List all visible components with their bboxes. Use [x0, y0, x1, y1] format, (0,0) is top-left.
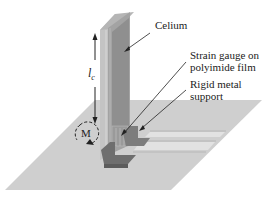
length-subscript: c [91, 73, 95, 82]
label-support-line1: Rigid metal [190, 79, 242, 90]
support-shadow [104, 164, 128, 168]
label-strain-gauge-line2: polyimide film [190, 62, 256, 73]
celium-mounting-diagram: Celium Strain gauge on polyimide film Ri… [0, 0, 269, 198]
label-celium: Celium [155, 20, 187, 31]
label-strain-gauge-line1: Strain gauge on [190, 50, 259, 61]
label-support-line2: support [190, 91, 223, 102]
floor-stripe [145, 132, 225, 137]
diagram-graphic [0, 0, 269, 198]
label-length: lc [88, 68, 95, 83]
label-moment: M [81, 128, 91, 139]
length-arrowhead-up-icon [93, 33, 98, 40]
floor-stripe [134, 142, 215, 150]
